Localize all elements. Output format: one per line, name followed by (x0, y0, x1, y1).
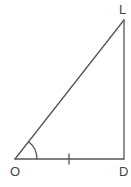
angle-arc-o (29, 142, 37, 159)
vertex-label-d: D (119, 164, 128, 179)
side-ol (15, 20, 124, 159)
vertex-label-l: L (119, 2, 126, 17)
vertex-label-o: O (10, 164, 20, 179)
triangle-diagram: L O D (0, 0, 131, 187)
